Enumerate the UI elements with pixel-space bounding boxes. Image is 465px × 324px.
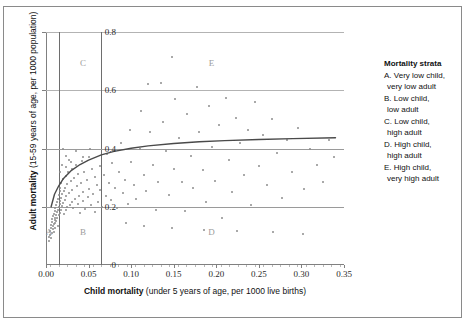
x-tick-minor-mark: [178, 265, 179, 267]
x-tick-label: 0.00: [38, 269, 54, 279]
x-tick-minor-mark: [263, 265, 264, 267]
x-tick-minor-mark: [306, 265, 307, 267]
x-tick-label: 0.10: [123, 269, 139, 279]
x-tick-mark: [301, 265, 302, 268]
x-tick-minor-mark: [50, 265, 51, 267]
y-tick-mark: [42, 32, 46, 33]
zone-label-a: A: [46, 227, 53, 236]
x-tick-minor-mark: [212, 265, 213, 267]
x-tick-minor-mark: [144, 265, 145, 267]
x-tick-label: 0.15: [166, 269, 182, 279]
x-tick-minor-mark: [246, 265, 247, 267]
y-tick-label: 0.4: [105, 144, 116, 154]
x-tick-mark: [259, 265, 260, 268]
x-tick-minor-mark: [135, 265, 136, 267]
legend-entry-line1: C. Low child,: [384, 117, 430, 126]
legend-entry-line1: E. High child,: [384, 163, 431, 172]
x-tick-minor-mark: [221, 265, 222, 267]
x-tick-minor-mark: [110, 265, 111, 267]
fit-curve: [46, 32, 344, 265]
x-tick-mark: [344, 265, 345, 268]
x-tick-minor-mark: [229, 265, 230, 267]
y-tick-label: 0.2: [105, 202, 116, 212]
x-tick-minor-mark: [255, 265, 256, 267]
x-tick-minor-mark: [152, 265, 153, 267]
chart-figure: Adult mortality (15-59 years of age, per…: [0, 0, 465, 324]
y-tick-mark: [42, 149, 46, 150]
legend-entry-line2: low adult: [384, 104, 464, 116]
x-tick-minor-mark: [272, 265, 273, 267]
y-tick-mark: [42, 90, 46, 91]
x-tick-minor-mark: [331, 265, 332, 267]
x-tick-mark: [89, 265, 90, 268]
y-tick-mark: [42, 207, 46, 208]
zone-label-c: C: [80, 58, 86, 67]
x-tick-minor-mark: [84, 265, 85, 267]
zone-label-d: D: [208, 227, 215, 236]
x-axis-title-bold: Child mortality: [84, 286, 144, 296]
x-tick-mark: [131, 265, 132, 268]
x-tick-minor-mark: [297, 265, 298, 267]
legend-entry-line1: B. Low child,: [384, 94, 429, 103]
x-tick-minor-mark: [289, 265, 290, 267]
x-tick-minor-mark: [101, 265, 102, 267]
x-tick-minor-mark: [127, 265, 128, 267]
legend-entry-line2: very high adult: [384, 173, 464, 185]
x-tick-minor-mark: [340, 265, 341, 267]
legend-entry-line1: A. Very low child,: [384, 71, 445, 80]
x-tick-minor-mark: [195, 265, 196, 267]
x-tick-minor-mark: [93, 265, 94, 267]
legend-entry-line2: very low adult: [384, 81, 464, 93]
x-axis-title-rest: (under 5 years of age, per 1000 live bir…: [143, 286, 306, 296]
legend-entry-line2: high adult: [384, 150, 464, 162]
y-tick-label: 0: [112, 260, 117, 270]
x-tick-minor-mark: [67, 265, 68, 267]
x-tick-minor-mark: [323, 265, 324, 267]
x-tick-minor-mark: [59, 265, 60, 267]
x-tick-mark: [216, 265, 217, 268]
x-tick-label: 0.25: [251, 269, 267, 279]
legend: Mortality strata A. Very low child,very …: [384, 58, 464, 185]
y-axis-title: Adult mortality (15-59 years of age, per…: [28, 6, 38, 236]
x-tick-label: 0.35: [336, 269, 352, 279]
legend-entry-a: A. Very low child,very low adult: [384, 70, 464, 93]
y-tick-label: 0.6: [105, 85, 116, 95]
y-axis-title-bold: Adult mortality: [28, 170, 38, 230]
legend-entry-b: B. Low child,low adult: [384, 93, 464, 116]
legend-entry-e: E. High child,very high adult: [384, 162, 464, 185]
legend-entry-line1: D. High child,: [384, 140, 432, 149]
x-tick-minor-mark: [280, 265, 281, 267]
plot-area: ABCDE: [46, 32, 344, 265]
x-axis-title: Child mortality (under 5 years of age, p…: [46, 286, 344, 296]
x-tick-mark: [46, 265, 47, 268]
x-tick-minor-mark: [238, 265, 239, 267]
x-tick-minor-mark: [314, 265, 315, 267]
x-tick-label: 0.20: [208, 269, 224, 279]
y-axis-title-rest: (15-59 years of age, per 1000 population…: [28, 12, 38, 171]
legend-title: Mortality strata: [384, 58, 464, 70]
x-tick-label: 0.30: [294, 269, 310, 279]
legend-entry-line2: high adult: [384, 127, 464, 139]
legend-entry-c: C. Low child,high adult: [384, 116, 464, 139]
zone-label-e: E: [209, 58, 215, 67]
x-tick-minor-mark: [204, 265, 205, 267]
x-tick-label: 0.05: [81, 269, 97, 279]
x-tick-minor-mark: [186, 265, 187, 267]
legend-entry-d: D. High child,high adult: [384, 139, 464, 162]
x-tick-minor-mark: [169, 265, 170, 267]
zone-label-b: B: [80, 227, 86, 236]
legend-entries: A. Very low child,very low adultB. Low c…: [384, 70, 464, 185]
x-tick-minor-mark: [76, 265, 77, 267]
x-tick-minor-mark: [118, 265, 119, 267]
x-tick-minor-mark: [161, 265, 162, 267]
y-tick-label: 0.8: [105, 27, 116, 37]
x-tick-mark: [174, 265, 175, 268]
